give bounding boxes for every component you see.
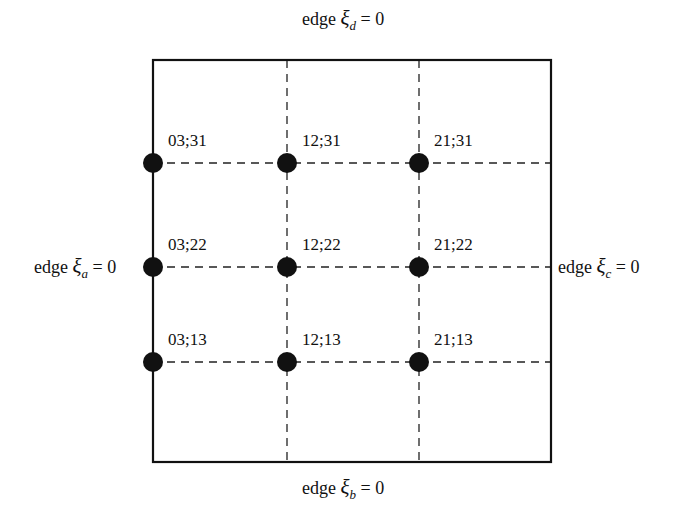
node-label: 21;13: [434, 331, 473, 349]
edge-label-text: edge: [34, 257, 72, 277]
node-label: 21;31: [434, 132, 473, 150]
node-dot: [277, 257, 297, 277]
subscript: b: [349, 487, 356, 502]
node-label: 03;31: [168, 132, 207, 150]
edge-label-bottom: edge ξb = 0: [302, 477, 384, 500]
node-dot: [409, 257, 429, 277]
node-grid-diagram: edge ξd = 0 edge ξb = 0 edge ξa = 0 edge…: [0, 0, 687, 525]
node-dot: [409, 153, 429, 173]
dashed-grid-lines: [153, 60, 551, 462]
node-label: 03;22: [168, 236, 207, 254]
equals-zero: = 0: [611, 257, 639, 277]
edge-label-text: edge: [558, 257, 596, 277]
element-boundary: [153, 60, 551, 462]
node-dot: [277, 352, 297, 372]
node-dot: [143, 257, 163, 277]
subscript: c: [605, 266, 611, 281]
node-label: 12;22: [302, 236, 341, 254]
node-dot: [409, 352, 429, 372]
equals-zero: = 0: [88, 257, 116, 277]
subscript: a: [81, 266, 88, 281]
edge-label-right: edge ξc = 0: [558, 256, 639, 279]
node-dot: [143, 153, 163, 173]
edge-label-text: edge: [302, 9, 340, 29]
node-label: 12;31: [302, 132, 341, 150]
node-label: 03;13: [168, 331, 207, 349]
node-dot: [277, 153, 297, 173]
edge-label-top: edge ξd = 0: [302, 8, 384, 31]
node-label: 12;13: [302, 331, 341, 349]
subscript: d: [349, 18, 356, 33]
node-label: 21;22: [434, 236, 473, 254]
edge-label-text: edge: [302, 478, 340, 498]
node-dot: [143, 352, 163, 372]
equals-zero: = 0: [356, 9, 384, 29]
equals-zero: = 0: [356, 478, 384, 498]
edge-label-left: edge ξa = 0: [34, 256, 116, 279]
